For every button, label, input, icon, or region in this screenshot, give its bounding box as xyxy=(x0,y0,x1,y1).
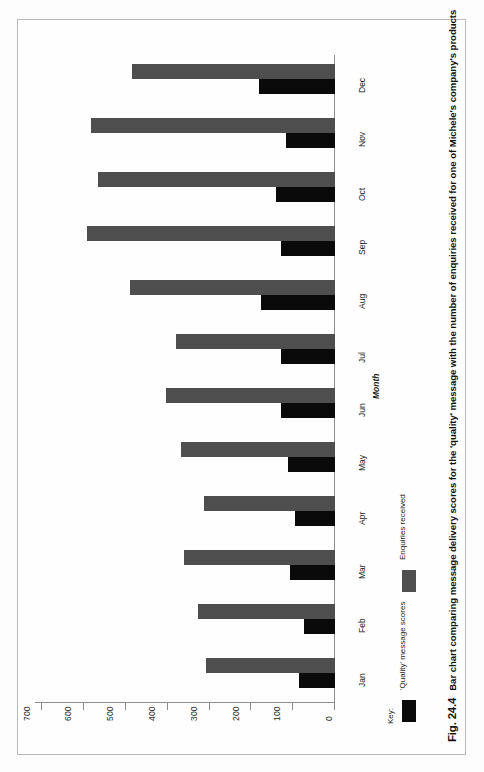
bar-enquiries-feb xyxy=(198,604,335,619)
figure-caption-text: Bar chart comparing message delivery sco… xyxy=(447,10,458,691)
value-tick-label: 300 xyxy=(189,706,199,721)
category-label-jul: Jul xyxy=(357,352,367,363)
bar-enquiries-jun xyxy=(166,388,335,403)
bar-enquiries-jan xyxy=(206,658,335,673)
value-axis-line xyxy=(35,702,335,703)
bar-quality-dec xyxy=(259,79,335,94)
value-tick-label: 500 xyxy=(105,706,115,721)
value-tick xyxy=(41,703,42,710)
value-tick xyxy=(250,703,251,710)
figure-page: 0100200300400500600700 JanFebMarAprMayJu… xyxy=(0,0,484,772)
value-tick-label: 400 xyxy=(147,706,157,721)
bar-enquiries-jul xyxy=(176,334,335,349)
bar-enquiries-apr xyxy=(204,496,335,511)
bar-quality-feb xyxy=(304,619,335,634)
bar-enquiries-dec xyxy=(132,64,335,79)
category-label-dec: Dec xyxy=(357,78,367,93)
category-label-oct: Oct xyxy=(357,188,367,201)
figure-caption: Fig. 24.4Bar chart comparing message del… xyxy=(446,10,458,742)
axis-title-month: Month xyxy=(371,374,381,400)
bar-enquiries-mar xyxy=(184,550,335,565)
value-tick xyxy=(167,703,168,710)
value-tick xyxy=(125,703,126,710)
bar-quality-jun xyxy=(281,403,335,418)
bar-quality-jan xyxy=(299,673,335,688)
value-tick-label: 600 xyxy=(63,706,73,721)
bar-quality-oct xyxy=(276,187,335,202)
bar-quality-apr xyxy=(295,511,335,526)
bar-quality-aug xyxy=(261,295,335,310)
legend-title: Key: xyxy=(386,708,395,724)
bar-enquiries-may xyxy=(181,442,335,457)
chart-legend: Key: 'Quality' message scores Enquiries … xyxy=(384,452,428,732)
value-tick-label: 0 xyxy=(324,716,334,721)
bar-chart: 0100200300400500600700 JanFebMarAprMayJu… xyxy=(35,55,335,715)
bar-enquiries-oct xyxy=(98,172,335,187)
bar-quality-mar xyxy=(290,565,335,580)
category-label-may: May xyxy=(357,455,367,471)
value-tick-label: 700 xyxy=(22,706,32,721)
value-tick xyxy=(209,703,210,710)
legend-swatch-enquiries xyxy=(402,570,416,592)
category-label-apr: Apr xyxy=(357,512,367,525)
category-label-aug: Aug xyxy=(357,294,367,309)
value-tick xyxy=(83,703,84,710)
bar-quality-may xyxy=(288,457,335,472)
bar-enquiries-nov xyxy=(91,118,335,133)
rotated-chart-canvas: 0100200300400500600700 JanFebMarAprMayJu… xyxy=(0,0,484,772)
value-tick xyxy=(292,703,293,710)
category-label-nov: Nov xyxy=(357,132,367,147)
category-label-jan: Jan xyxy=(357,673,367,687)
legend-label-quality: 'Quality' message scores xyxy=(398,602,407,690)
value-tick xyxy=(334,703,335,710)
bar-enquiries-sep xyxy=(87,226,335,241)
bar-quality-sep xyxy=(281,241,335,256)
category-label-jun: Jun xyxy=(357,403,367,417)
bar-quality-nov xyxy=(286,133,335,148)
legend-label-enquiries: Enquiries received xyxy=(398,494,407,560)
value-tick-label: 100 xyxy=(272,706,282,721)
figure-number: Fig. 24.4 xyxy=(446,698,458,742)
category-label-mar: Mar xyxy=(357,564,367,579)
bar-quality-jul xyxy=(281,349,335,364)
value-tick-label: 200 xyxy=(231,706,241,721)
category-label-sep: Sep xyxy=(357,240,367,255)
category-label-feb: Feb xyxy=(357,618,367,633)
bar-enquiries-aug xyxy=(130,280,335,295)
legend-swatch-quality xyxy=(402,700,416,722)
